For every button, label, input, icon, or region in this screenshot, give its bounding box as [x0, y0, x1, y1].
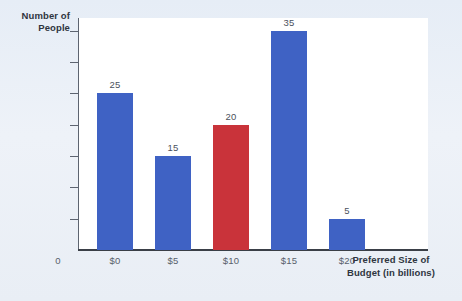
- bar-slot: 35: [260, 18, 318, 250]
- y-tick-label-wrap: 35: [0, 31, 78, 32]
- bar-usd0[interactable]: [97, 93, 133, 250]
- x-tick-label: $10: [202, 255, 260, 266]
- y-tick-label-wrap: 30: [0, 62, 78, 63]
- x-axis-title-line2: Budget (in billions): [326, 267, 456, 280]
- x-tick-label: $15: [260, 255, 318, 266]
- x-axis-title: Preferred Size of Budget (in billions): [326, 254, 456, 279]
- bar-usd5[interactable]: [155, 156, 191, 250]
- bar-value-label: 35: [284, 17, 295, 28]
- bar-value-label: 15: [168, 142, 179, 153]
- bar-slot: 5: [318, 18, 376, 250]
- bar-value-label: 20: [226, 111, 237, 122]
- bar-chart-figure: Number of People 5101520253035 0 2515203…: [0, 0, 462, 301]
- y-tick-label-wrap: 10: [0, 187, 78, 188]
- x-tick-label: $0: [86, 255, 144, 266]
- y-tick-label-wrap: 20: [0, 125, 78, 126]
- y-tick-label-wrap: 15: [0, 156, 78, 157]
- x-axis-title-line1: Preferred Size of: [326, 254, 456, 267]
- bar-usd15[interactable]: [271, 31, 307, 250]
- bar-slot: 15: [144, 18, 202, 250]
- y-tick-label-wrap: 5: [0, 219, 78, 220]
- bar-value-label: 25: [110, 79, 121, 90]
- y-axis-origin-label: 0: [46, 255, 70, 266]
- bar-usd10[interactable]: [213, 125, 249, 250]
- bar-series: 251520355: [78, 18, 428, 250]
- bar-slot: 20: [202, 18, 260, 250]
- y-tick-label-wrap: 25: [0, 93, 78, 94]
- bar-usd20[interactable]: [329, 219, 365, 250]
- y-axis-title-line1: Number of: [6, 10, 70, 22]
- bar-value-label: 5: [344, 205, 349, 216]
- x-tick-label: $5: [144, 255, 202, 266]
- bar-slot: 25: [86, 18, 144, 250]
